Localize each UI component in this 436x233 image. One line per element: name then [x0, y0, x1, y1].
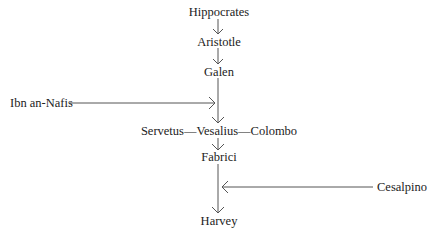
node-ibn-an-nafis: Ibn an-Nafis — [10, 96, 73, 110]
node-hippocrates: Hippocrates — [189, 5, 249, 19]
node-cesalpino: Cesalpino — [377, 180, 427, 194]
node-aristotle: Aristotle — [197, 35, 241, 49]
node-harvey: Harvey — [201, 214, 238, 228]
node-galen: Galen — [204, 65, 234, 79]
node-servetus-vesalius-colombo: Servetus—Vesalius—Colombo — [141, 124, 297, 138]
node-fabrici: Fabrici — [201, 150, 236, 164]
